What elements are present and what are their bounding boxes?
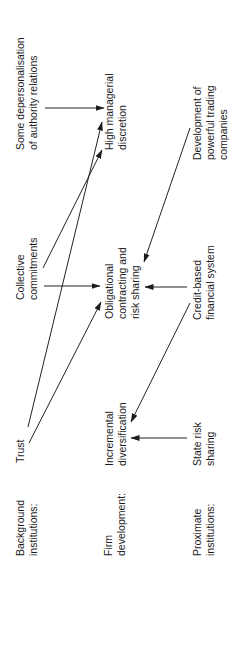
arrow-trust-to-obligational bbox=[29, 302, 101, 443]
arrow-credit-to-incremental bbox=[131, 303, 190, 422]
row-label-proximate: Proximate institutions: bbox=[191, 503, 216, 556]
node-trust: Trust bbox=[14, 439, 26, 463]
node-collective-line2: commitments bbox=[27, 238, 39, 300]
node-state-line1: State risk bbox=[191, 421, 203, 466]
node-incremental-line1: Incremental bbox=[103, 411, 115, 466]
node-credit-based-financial-system: Credit-based financial system bbox=[191, 245, 216, 320]
node-collective-commitments: Collective commitments bbox=[14, 238, 39, 300]
node-managerial-line1: High managerial bbox=[103, 74, 115, 150]
node-obligational-line2: contracting and bbox=[116, 247, 128, 319]
node-trading-line2: powerful trading bbox=[204, 85, 216, 160]
node-incremental-line2: diversification bbox=[116, 402, 128, 466]
node-depersonalisation: Some depersonalisation of authority rela… bbox=[14, 37, 39, 150]
row-label-background: Background institutions: bbox=[14, 500, 39, 556]
institutions-diagram: Background institutions: Firm developmen… bbox=[0, 0, 237, 658]
node-obligational-line3: risk sharing bbox=[129, 265, 141, 319]
row-label-firm-line1: Firm bbox=[102, 535, 114, 556]
node-credit-line1: Credit-based bbox=[191, 260, 203, 320]
row-label-background-line2: institutions: bbox=[27, 503, 39, 556]
row-label-proximate-line2: institutions: bbox=[204, 503, 216, 556]
node-trading-line3: companies bbox=[217, 109, 229, 160]
node-obligational-contracting: Obligational contracting and risk sharin… bbox=[103, 247, 141, 319]
node-obligational-line1: Obligational bbox=[103, 264, 115, 319]
arrow-collective-to-managerial bbox=[43, 150, 102, 268]
node-incremental-diversification: Incremental diversification bbox=[103, 402, 128, 466]
node-credit-line2: financial system bbox=[204, 245, 216, 320]
node-trust-line1: Trust bbox=[14, 439, 26, 463]
arrow-trading-to-obligational bbox=[144, 128, 190, 262]
arrow-trust-to-managerial bbox=[28, 122, 102, 427]
node-trading-line1: Development of bbox=[191, 86, 203, 160]
node-depersonalisation-line1: Some depersonalisation bbox=[14, 37, 26, 150]
row-label-firm: Firm development: bbox=[102, 493, 127, 556]
row-label-proximate-line1: Proximate bbox=[191, 509, 203, 556]
node-trading-companies: Development of powerful trading companie… bbox=[191, 85, 229, 160]
row-label-background-line1: Background bbox=[14, 500, 26, 556]
row-label-firm-line2: development: bbox=[115, 493, 127, 556]
node-state-risk-sharing: State risk sharing bbox=[191, 421, 216, 466]
node-high-managerial-discretion: High managerial discretion bbox=[103, 74, 128, 150]
node-depersonalisation-line2: of authority relations bbox=[27, 55, 39, 150]
node-state-line2: sharing bbox=[204, 431, 216, 466]
node-managerial-line2: discretion bbox=[116, 105, 128, 150]
node-collective-line1: Collective bbox=[14, 254, 26, 300]
